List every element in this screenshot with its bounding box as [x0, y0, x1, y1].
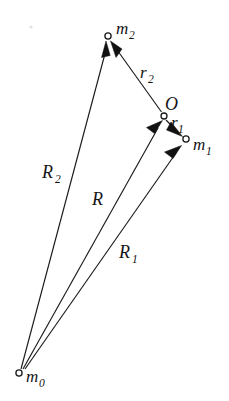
figure-background: [0, 0, 229, 401]
vector-R1-label: R: [118, 242, 130, 262]
node-m1-label: m: [193, 135, 205, 154]
node-m0-marker: [16, 370, 22, 376]
vector-R2-label-subscript: 2: [55, 173, 61, 185]
node-O-label: O: [165, 94, 178, 114]
node-m0-label: m: [26, 367, 38, 386]
vector-r2-label-subscript: 2: [148, 73, 154, 85]
vector-figure: R 2 R R 1 r 2 r 1: [0, 0, 229, 401]
vector-r2-label: r: [140, 63, 147, 82]
vector-R1-label-subscript: 1: [132, 253, 138, 265]
node-m1-marker: [183, 136, 189, 142]
vector-R-label: R: [91, 189, 103, 209]
vector-r1-label: r: [171, 113, 178, 132]
vector-R2-label: R: [41, 162, 53, 182]
vector-diagram-canvas: R 2 R R 1 r 2 r 1: [0, 0, 229, 401]
node-m2-label-subscript: 2: [129, 29, 135, 41]
vector-r1-label-subscript: 1: [178, 123, 184, 135]
node-m2-label: m: [116, 19, 128, 38]
node-m1-label-subscript: 1: [206, 145, 212, 157]
node-m2-marker: [105, 33, 111, 39]
scan-speck: [29, 25, 32, 28]
node-m0-label-subscript: 0: [39, 377, 45, 389]
